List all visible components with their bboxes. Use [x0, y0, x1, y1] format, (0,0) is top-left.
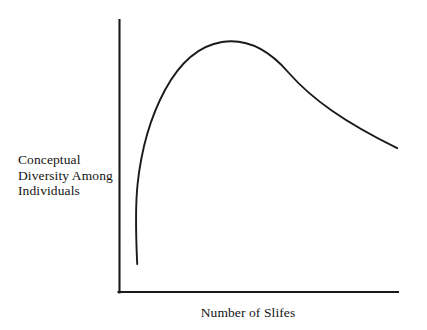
x-axis-label: Number of Slifes: [148, 305, 348, 321]
y-axis-label: Conceptual Diversity Among Individuals: [18, 152, 114, 199]
